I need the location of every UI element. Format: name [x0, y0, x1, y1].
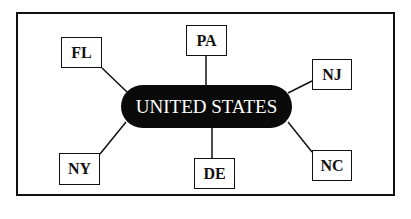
node-de: DE	[194, 158, 235, 189]
node-label: NY	[68, 160, 91, 178]
connector-nj	[288, 81, 312, 93]
connector-nc	[288, 122, 312, 152]
node-label: PA	[196, 32, 216, 50]
node-label: NJ	[322, 66, 342, 84]
node-pa: PA	[186, 25, 227, 56]
node-fl: FL	[61, 37, 102, 68]
center-node-label: UNITED STATES	[136, 96, 278, 118]
node-ny: NY	[59, 153, 100, 185]
node-label: NC	[320, 157, 343, 175]
connector-ny	[100, 122, 126, 154]
node-nc: NC	[312, 150, 352, 181]
center-node: UNITED STATES	[121, 85, 292, 128]
node-label: FL	[71, 44, 91, 62]
node-nj: NJ	[312, 59, 352, 90]
connector-fl	[102, 68, 127, 92]
node-label: DE	[203, 165, 225, 183]
